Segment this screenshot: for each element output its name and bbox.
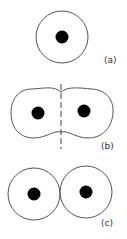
diagram-canvas: (a) (b) (c) [0, 0, 127, 239]
panel-b: (b) [11, 84, 114, 151]
panel-label-c: (c) [101, 218, 113, 228]
panel-a: (a) [36, 11, 117, 65]
panel-label-a: (a) [104, 55, 117, 65]
atom-nucleus-left [28, 188, 41, 201]
merged-shell [11, 88, 113, 138]
atom-nucleus-right [78, 105, 91, 118]
atom-nucleus [56, 31, 69, 44]
panel-label-b: (b) [101, 141, 114, 151]
panel-c: (c) [8, 166, 113, 228]
atom-nucleus-left [32, 107, 45, 120]
atom-nucleus-right [80, 186, 93, 199]
